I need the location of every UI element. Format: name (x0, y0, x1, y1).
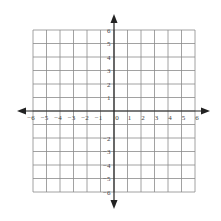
y-tick-label: 3 (107, 67, 111, 75)
y-tick-label: 5 (107, 40, 111, 48)
x-axis-left-arrow-icon (17, 108, 26, 115)
y-tick-label: 2 (107, 81, 111, 89)
y-tick-label: −3 (103, 148, 111, 156)
x-tick-label: −2 (81, 114, 89, 122)
x-tick-label: −3 (68, 114, 76, 122)
x-axis-right-arrow-icon (201, 108, 210, 115)
x-tick-label: 3 (155, 114, 159, 122)
x-tick-label: −1 (95, 114, 103, 122)
x-tick-label: 1 (128, 114, 132, 122)
y-axis-down-arrow-icon (111, 200, 118, 209)
y-tick-label: −2 (103, 135, 111, 143)
coordinate-plane: −6−5−4−3−2−10123456 123456−2−3−4−5−6 (0, 0, 221, 221)
x-tick-label: 2 (141, 114, 145, 122)
y-axis-up-arrow-icon (111, 14, 118, 23)
y-tick-label: −4 (103, 162, 111, 170)
x-tick-label: −6 (27, 114, 35, 122)
y-tick-label: −5 (103, 175, 111, 183)
x-tick-labels: −6−5−4−3−2−10123456 (27, 114, 199, 122)
y-tick-label: 1 (107, 94, 111, 102)
x-tick-label: −4 (54, 114, 62, 122)
x-tick-label: −5 (41, 114, 49, 122)
y-tick-label: 4 (107, 54, 111, 62)
y-tick-label: −6 (103, 189, 111, 197)
x-tick-label: 4 (168, 114, 172, 122)
y-tick-label: 6 (107, 27, 111, 35)
x-tick-label: 0 (115, 114, 119, 122)
x-tick-label: 5 (182, 114, 186, 122)
x-tick-label: 6 (195, 114, 199, 122)
